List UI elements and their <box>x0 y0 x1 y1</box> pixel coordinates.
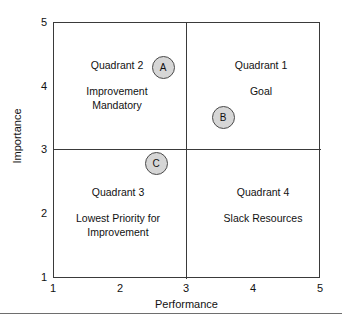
data-point-a[interactable]: A <box>152 56 175 79</box>
quadrant-divider-horizontal <box>53 149 321 150</box>
quadrant-4-description: Slack Resources <box>203 211 323 225</box>
quadrant-4-description-line-1: Slack Resources <box>203 211 323 225</box>
quadrant-2-description-line-2: Mandatory <box>62 98 172 112</box>
quadrant-3-description-line-2: Improvement <box>58 225 178 239</box>
x-tick-label-4: 4 <box>246 283 260 294</box>
footer-divider <box>0 313 342 314</box>
x-axis-title: Performance <box>53 298 320 310</box>
y-tick-label-1: 1 <box>33 272 47 283</box>
quadrant-3-description: Lowest Priority for Improvement <box>58 211 178 239</box>
quadrant-2-description: Improvement Mandatory <box>62 84 172 112</box>
quadrant-4-heading: Quadrant 4 <box>203 185 323 199</box>
y-tick-label-3: 3 <box>33 144 47 155</box>
data-point-b[interactable]: B <box>212 106 235 129</box>
quadrant-1-heading: Quadrant 1 <box>206 58 316 72</box>
quadrant-divider-vertical <box>186 22 187 279</box>
x-tick-label-2: 2 <box>113 283 127 294</box>
quadrant-1-description-line-1: Goal <box>206 84 316 98</box>
x-tick-label-3: 3 <box>179 283 193 294</box>
quadrant-1-block: Quadrant 1 Goal <box>206 58 316 98</box>
quadrant-4-block: Quadrant 4 Slack Resources <box>203 185 323 225</box>
quadrant-3-description-line-1: Lowest Priority for <box>58 211 178 225</box>
data-point-c[interactable]: C <box>145 152 168 175</box>
y-tick-label-4: 4 <box>33 81 47 92</box>
quadrant-2-description-line-1: Improvement <box>62 84 172 98</box>
quadrant-1-description: Goal <box>206 84 316 98</box>
quadrant-3-heading: Quadrant 3 <box>58 185 178 199</box>
y-tick-label-2: 2 <box>33 208 47 219</box>
quadrant-3-block: Quadrant 3 Lowest Priority for Improveme… <box>58 185 178 239</box>
x-tick-label-1: 1 <box>46 283 60 294</box>
x-tick-label-5: 5 <box>313 283 327 294</box>
y-axis-title: Importance <box>11 81 23 191</box>
y-tick-label-5: 5 <box>33 17 47 28</box>
chart-canvas: 5 4 3 2 1 1 2 3 4 5 Performance Importan… <box>0 0 342 322</box>
